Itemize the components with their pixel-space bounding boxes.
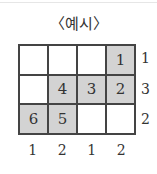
col-label-1: 1 bbox=[18, 142, 48, 158]
puzzle-grid: 1 4 3 2 6 5 bbox=[18, 44, 136, 135]
grid-cell-r3-c1: 6 bbox=[19, 104, 48, 134]
grid-cell-r3-c3 bbox=[77, 104, 106, 134]
grid-cell-r1-c1 bbox=[19, 45, 48, 75]
grid-cell-r2-c4: 2 bbox=[106, 75, 135, 105]
grid-cell-r2-c2: 4 bbox=[48, 75, 77, 105]
grid-cell-r1-c3 bbox=[77, 45, 106, 75]
col-label-4: 2 bbox=[107, 142, 137, 158]
grid-cell-r1-c4: 1 bbox=[106, 45, 135, 75]
col-label-3: 1 bbox=[77, 142, 107, 158]
row-label-1: 1 bbox=[141, 50, 150, 66]
grid-cell-r2-c3: 3 bbox=[77, 75, 106, 105]
top-divider bbox=[0, 2, 157, 3]
example-title: 〈예시〉 bbox=[0, 12, 157, 33]
grid-cell-r2-c1 bbox=[19, 75, 48, 105]
grid-cell-r3-c4 bbox=[106, 104, 135, 134]
grid-cell-r1-c2 bbox=[48, 45, 77, 75]
row-label-2: 3 bbox=[141, 81, 150, 97]
row-label-3: 2 bbox=[141, 111, 150, 127]
col-label-2: 2 bbox=[48, 142, 78, 158]
grid-cell-r3-c2: 5 bbox=[48, 104, 77, 134]
